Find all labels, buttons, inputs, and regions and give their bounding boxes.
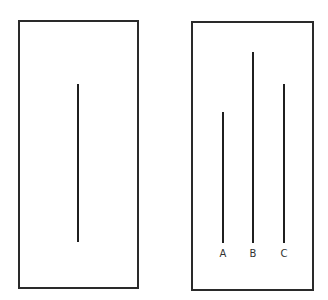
comparison-line-a <box>222 112 224 243</box>
comparison-line-c <box>283 84 285 243</box>
label-a: A <box>216 249 230 259</box>
label-b: B <box>246 249 260 259</box>
label-c: C <box>277 249 291 259</box>
comparison-line-b <box>252 52 254 243</box>
standard-line <box>77 84 79 242</box>
